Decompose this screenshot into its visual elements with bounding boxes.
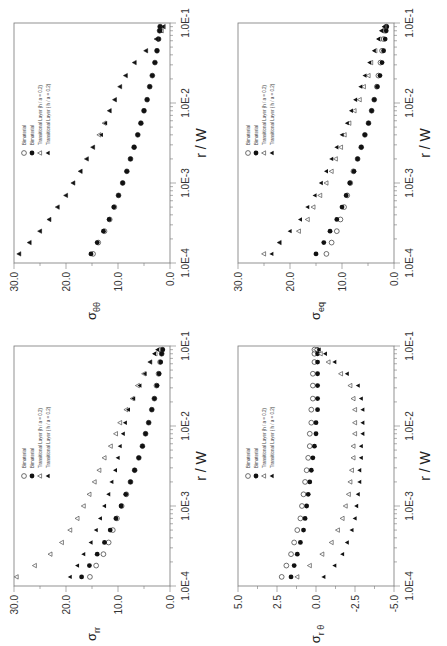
open-triangle-marker	[353, 407, 357, 411]
filled-triangle-marker	[89, 540, 93, 544]
open-triangle-marker	[320, 552, 324, 556]
filled-triangle-marker	[38, 229, 42, 233]
filled-circle-marker	[355, 157, 360, 162]
open-triangle-marker	[339, 145, 343, 149]
filled-triangle-marker	[359, 456, 363, 460]
filled-circle-marker	[147, 84, 152, 89]
filled-circle-marker	[143, 431, 148, 436]
filled-circle-marker	[108, 528, 113, 533]
filled-circle-marker	[340, 205, 345, 210]
filled-circle-marker	[254, 151, 259, 156]
y-tick-label: 0.0	[311, 595, 322, 609]
filled-circle-marker	[295, 552, 300, 557]
open-triangle-marker	[318, 193, 322, 197]
open-circle-marker	[307, 431, 312, 436]
legend-label: Transitional Layer ( h / a = 0.2)	[270, 406, 275, 468]
filled-triangle-marker	[340, 552, 344, 556]
filled-triangle-marker	[270, 474, 274, 478]
open-triangle-marker	[38, 474, 42, 478]
filled-circle-marker	[315, 396, 320, 401]
x-axis-label: r / W	[417, 450, 433, 480]
open-triangle-marker	[81, 504, 85, 508]
filled-triangle-marker	[340, 133, 344, 137]
y-tick-label: 10.0	[337, 272, 348, 292]
panel-sigma-eq: 1.0E-41.0E-31.0E-21.0E-1r / W0.010.020.0…	[224, 0, 447, 323]
y-tick-label: 30.0	[9, 272, 20, 292]
open-triangle-marker	[349, 468, 353, 472]
filled-triangle-marker	[372, 49, 376, 53]
filled-circle-marker	[380, 60, 385, 65]
open-triangle-marker	[262, 474, 266, 478]
open-circle-marker	[88, 574, 93, 579]
filled-circle-marker	[124, 169, 129, 174]
filled-circle-marker	[372, 97, 377, 102]
panel-sigma-rr: 1.0E-41.0E-31.0E-21.0E-1r / W0.010.020.0…	[0, 323, 223, 646]
open-triangle-marker	[97, 468, 101, 472]
filled-circle-marker	[30, 151, 35, 156]
y-axis-label: σθθ	[84, 302, 102, 320]
filled-triangle-marker	[332, 360, 336, 364]
x-tick-label: 1.0E-2	[404, 411, 415, 441]
filled-circle-marker	[312, 444, 317, 449]
open-triangle-marker	[333, 157, 337, 161]
y-tick-label: -2.5	[350, 595, 361, 613]
filled-circle-marker	[315, 383, 320, 388]
filled-triangle-marker	[353, 516, 357, 520]
filled-triangle-marker	[269, 252, 273, 256]
panel-sigma-rtheta: 1.0E-41.0E-31.0E-21.0E-1r / W-5.0-2.50.0…	[224, 323, 447, 646]
open-triangle-marker	[48, 552, 52, 556]
legend-label: Bimaterial	[254, 448, 259, 468]
filled-triangle-marker	[123, 420, 127, 424]
x-tick-label: 1.0E-1	[404, 8, 415, 38]
open-circle-marker	[292, 540, 297, 545]
y-tick-label: 5.0	[233, 595, 244, 609]
open-circle-marker	[309, 407, 314, 412]
filled-triangle-marker	[118, 84, 122, 88]
filled-triangle-marker	[362, 73, 366, 77]
open-circle-marker	[304, 468, 309, 473]
filled-circle-marker	[145, 97, 150, 102]
x-tick-label: 1.0E-4	[180, 248, 191, 278]
open-circle-marker	[101, 552, 106, 557]
filled-circle-marker	[381, 48, 386, 53]
legend-label: Bimaterial	[254, 125, 259, 145]
open-triangle-marker	[108, 444, 112, 448]
x-tick-label: 1.0E-4	[180, 571, 191, 601]
filled-circle-marker	[315, 360, 320, 365]
filled-triangle-marker	[152, 352, 156, 356]
open-triangle-marker	[348, 480, 352, 484]
open-circle-marker	[246, 151, 251, 156]
x-tick-label: 1.0E-2	[180, 411, 191, 441]
filled-circle-marker	[136, 455, 141, 460]
filled-circle-marker	[114, 516, 119, 521]
filled-circle-marker	[366, 121, 371, 126]
filled-circle-marker	[87, 563, 92, 568]
open-circle-marker	[310, 371, 315, 376]
legend-label: Bimaterial	[22, 125, 27, 145]
filled-circle-marker	[378, 73, 383, 78]
filled-circle-marker	[298, 540, 303, 545]
open-triangle-marker	[311, 205, 315, 209]
legend: BimaterialBimaterialTransitional Layer (…	[22, 406, 51, 478]
filled-triangle-marker	[354, 504, 358, 508]
open-triangle-marker	[59, 540, 63, 544]
data-series	[269, 24, 385, 256]
legend: BimaterialBimaterialTransitional Layer (…	[246, 83, 275, 155]
filled-circle-marker	[101, 229, 106, 234]
open-circle-marker	[306, 455, 311, 460]
filled-circle-marker	[160, 347, 165, 352]
filled-circle-marker	[95, 552, 100, 557]
legend-label: Transitional Layer (h / a = 0.2)	[38, 408, 43, 468]
panel-sigma-thetatheta: 1.0E-41.0E-31.0E-21.0E-1r / W0.010.020.0…	[0, 0, 223, 323]
open-circle-marker	[284, 563, 289, 568]
legend-label: Bimaterial	[30, 125, 35, 145]
chart-sigma-thetatheta: 1.0E-41.0E-31.0E-21.0E-1r / W0.010.020.0…	[0, 0, 223, 323]
legend-label: Transitional Layer (h / a = 0.2)	[262, 85, 267, 145]
x-tick-label: 1.0E-1	[180, 8, 191, 38]
data-series	[91, 24, 163, 256]
filled-triangle-marker	[359, 396, 363, 400]
y-tick-label: 20.0	[285, 272, 296, 292]
legend-label: Transitional Layer ( h / a = 0.2)	[46, 406, 51, 468]
y-tick-label: 30.0	[9, 595, 20, 615]
x-tick-label: 1.0E-2	[180, 88, 191, 118]
